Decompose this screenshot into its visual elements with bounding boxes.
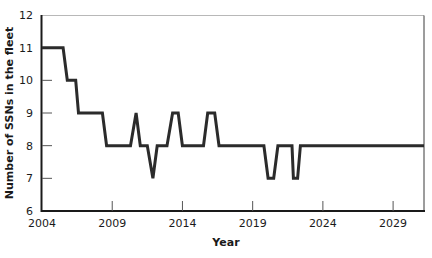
y-tick-label: 9	[26, 107, 33, 120]
x-tick-label: 2009	[98, 217, 126, 230]
y-tick-label: 11	[19, 42, 33, 55]
y-axis-title: Number of SSNs in the fleet	[3, 27, 16, 199]
x-tick-label: 2019	[239, 217, 267, 230]
y-axis-ticks: 6789101112	[19, 9, 52, 218]
x-axis-ticks: 200420092014201920242029	[28, 201, 407, 230]
fleet-count-line	[42, 48, 424, 179]
x-tick-label: 2014	[168, 217, 196, 230]
y-tick-label: 12	[19, 9, 33, 22]
y-tick-label: 7	[26, 172, 33, 185]
line-chart: 6789101112 200420092014201920242029 Year…	[0, 0, 432, 258]
y-tick-label: 10	[19, 74, 33, 87]
x-tick-label: 2024	[309, 217, 337, 230]
x-axis-title: Year	[211, 236, 240, 249]
x-tick-label: 2004	[28, 217, 56, 230]
x-tick-label: 2029	[379, 217, 407, 230]
y-tick-label: 8	[26, 140, 33, 153]
